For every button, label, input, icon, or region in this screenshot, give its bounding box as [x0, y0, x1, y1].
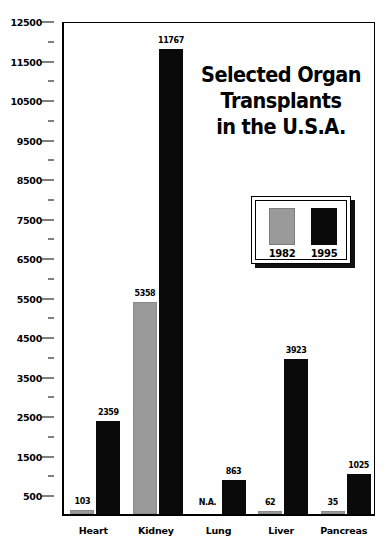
- chart-legend: 19821995: [251, 196, 355, 268]
- x-axis: HeartKidneyLungLiverPancreas: [62, 519, 375, 545]
- bar-liver-1982: [258, 511, 282, 514]
- y-tick-minor: [48, 357, 54, 358]
- y-tick-minor: [48, 397, 54, 398]
- y-tick-major: [42, 22, 54, 23]
- y-tick-label: 2500: [17, 412, 42, 423]
- legend-swatch-1995: [311, 208, 337, 245]
- y-tick-minor: [48, 160, 54, 161]
- x-category-pancreas: Pancreas: [320, 525, 367, 536]
- y-tick-minor: [48, 120, 54, 121]
- legend-entry-1995: 1995: [307, 208, 341, 259]
- x-category-heart: Heart: [79, 525, 108, 536]
- y-tick-label: 6500: [17, 254, 42, 265]
- y-tick-label: 11500: [10, 56, 42, 67]
- bar-value-label: 5358: [135, 289, 156, 298]
- y-tick-major: [42, 417, 54, 418]
- bar-kidney-1982: [133, 302, 157, 514]
- bar-value-label: 62: [265, 498, 275, 507]
- bar-value-label: 3923: [286, 346, 307, 355]
- y-tick-major: [42, 456, 54, 457]
- x-category-kidney: Kidney: [138, 525, 174, 536]
- y-tick-minor: [48, 41, 54, 42]
- bar-value-label: 1025: [348, 461, 369, 470]
- bar-liver-1995: [284, 359, 308, 514]
- y-tick-major: [42, 298, 54, 299]
- y-tick-label: 8500: [17, 175, 42, 186]
- chart-title-line-2: Transplants: [195, 88, 366, 114]
- bar-value-label: 863: [226, 467, 242, 476]
- bar-value-label: 35: [328, 498, 338, 507]
- y-tick-label: 12500: [10, 17, 42, 28]
- bar-kidney-1995: [159, 49, 183, 514]
- chart-title-line-3: in the U.S.A.: [195, 114, 366, 140]
- y-tick-label: 3500: [17, 372, 42, 383]
- x-category-lung: Lung: [206, 525, 232, 536]
- organ-transplants-bar-chart: 1250011500105009500850075006500550045003…: [0, 0, 385, 549]
- y-tick-major: [42, 259, 54, 260]
- legend-label-1982: 1982: [265, 248, 299, 259]
- y-tick-major: [42, 496, 54, 497]
- chart-title-line-1: Selected Organ: [195, 62, 366, 88]
- bar-pancreas-1995: [347, 474, 371, 515]
- legend-swatch-1982: [269, 208, 295, 245]
- y-tick-major: [42, 338, 54, 339]
- y-tick-label: 7500: [17, 214, 42, 225]
- bar-value-label: 2359: [98, 408, 119, 417]
- y-tick-major: [42, 61, 54, 62]
- x-category-liver: Liver: [268, 525, 294, 536]
- legend-label-1995: 1995: [307, 248, 341, 259]
- y-tick-minor: [48, 476, 54, 477]
- bar-heart-1995: [96, 421, 120, 514]
- legend-inner-border: 19821995: [255, 200, 347, 260]
- y-tick-minor: [48, 81, 54, 82]
- legend-box: 19821995: [251, 196, 351, 264]
- y-tick-major: [42, 140, 54, 141]
- y-tick-minor: [48, 199, 54, 200]
- bar-value-label: N.A.: [199, 498, 217, 507]
- y-tick-label: 500: [23, 491, 42, 502]
- y-tick-minor: [48, 318, 54, 319]
- y-tick-major: [42, 101, 54, 102]
- bar-heart-1982: [70, 510, 94, 514]
- legend-entry-1982: 1982: [265, 208, 299, 259]
- y-tick-minor: [48, 436, 54, 437]
- chart-title: Selected OrganTransplantsin the U.S.A.: [195, 62, 366, 140]
- y-tick-major: [42, 219, 54, 220]
- y-tick-label: 5500: [17, 293, 42, 304]
- y-tick-minor: [48, 278, 54, 279]
- y-tick-major: [42, 180, 54, 181]
- bar-pancreas-1982: [321, 511, 345, 514]
- y-tick-minor: [48, 239, 54, 240]
- y-tick-label: 1500: [17, 451, 42, 462]
- y-tick-label: 4500: [17, 333, 42, 344]
- bar-value-label: 103: [75, 497, 91, 506]
- bar-lung-1995: [222, 480, 246, 514]
- y-tick-label: 10500: [10, 96, 42, 107]
- y-tick-major: [42, 377, 54, 378]
- y-axis: 1250011500105009500850075006500550045003…: [0, 0, 62, 549]
- bar-value-label: 11767: [158, 36, 184, 45]
- y-tick-label: 9500: [17, 135, 42, 146]
